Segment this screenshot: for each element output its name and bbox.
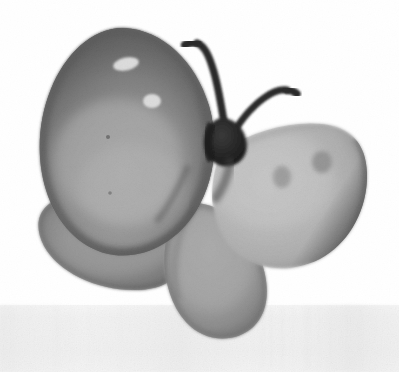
paper-grain-overlay: [0, 0, 399, 372]
butterfly-artwork: [0, 0, 399, 372]
butterfly-illustration: Butterfly soft-edged monochrome wash on …: [0, 0, 399, 372]
